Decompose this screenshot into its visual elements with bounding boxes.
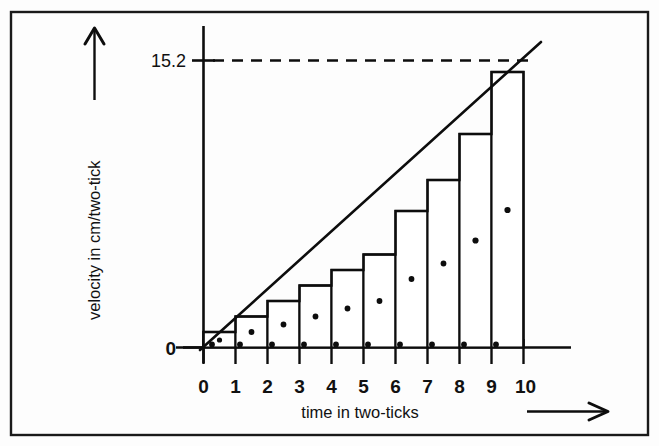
x-tick-label-4: 4: [326, 376, 337, 397]
x-tick-label-0: 0: [198, 376, 209, 397]
x-tick-labels: 0 1 2 3 4 5 6 7 8 9 10: [198, 376, 536, 397]
y-tick-label-15: 15.2: [151, 51, 186, 71]
histogram-bars: [204, 72, 524, 348]
figure-root: 15.2 0 velocity in cm/two-tick 0 1 2 3 4…: [0, 0, 659, 446]
figure-border: [11, 12, 648, 435]
x-axis-title: time in two-ticks: [301, 403, 418, 421]
x-tick-label-6: 6: [390, 376, 401, 397]
x-tick-label-7: 7: [422, 376, 433, 397]
x-tick-label-8: 8: [454, 376, 465, 397]
y-tick-label-zero: 0: [165, 338, 176, 359]
x-tick-label-10: 10: [515, 376, 536, 397]
velocity-time-chart: 15.2 0 velocity in cm/two-tick 0 1 2 3 4…: [0, 0, 659, 446]
x-tick-label-9: 9: [486, 376, 497, 397]
x-tick-label-2: 2: [262, 376, 273, 397]
right-arrow-icon: [527, 403, 608, 420]
x-tick-label-1: 1: [230, 376, 241, 397]
y-axis-title: velocity in cm/two-tick: [85, 160, 103, 320]
x-tick-label-5: 5: [358, 376, 369, 397]
up-arrow-icon: [85, 28, 104, 100]
x-tick-label-3: 3: [294, 376, 305, 397]
